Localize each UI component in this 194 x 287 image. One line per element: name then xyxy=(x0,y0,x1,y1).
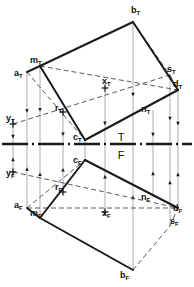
projector-b-arrow-down xyxy=(131,93,135,97)
projector-m-arrow-down xyxy=(38,108,42,112)
label-m_T-subscript: T xyxy=(38,60,42,66)
fold-label-top: T xyxy=(118,131,125,143)
label-d_F-subscript: F xyxy=(179,208,183,214)
label-b_T: bT xyxy=(131,5,141,16)
label-a_T: aT xyxy=(14,68,23,79)
dash-bF-sF xyxy=(133,226,170,270)
label-x_F-subscript: F xyxy=(107,213,111,219)
projector-m-arrow-up xyxy=(38,172,42,176)
label-d_T-subscript: T xyxy=(179,84,183,90)
edge-cT-mT xyxy=(40,66,85,140)
label-c_F-subscript: F xyxy=(78,160,82,166)
fold-label-bottom: F xyxy=(118,149,125,161)
label-s_T-subscript: T xyxy=(172,69,176,75)
edge-mF-bF xyxy=(40,218,133,270)
label-x_T-subscript: T xyxy=(107,81,111,87)
edge-mT-bT xyxy=(40,22,133,66)
label-d_T: dT xyxy=(173,79,183,90)
edge-bT-dT xyxy=(133,22,178,90)
crosshair-markers-group xyxy=(10,85,109,216)
label-y_F-subscript: F xyxy=(11,173,15,179)
edge-aT-mT xyxy=(27,66,40,72)
label-r_T-subscript: T xyxy=(59,108,63,114)
visible-solid-edges-group xyxy=(27,22,178,270)
label-n_F-subscript: F xyxy=(147,197,151,203)
projector-r-arrow-up xyxy=(61,168,65,172)
label-r_F-subscript: F xyxy=(59,187,63,193)
label-y_T: yT xyxy=(6,113,15,124)
projector-s-arrow-down xyxy=(168,117,172,121)
label-a_T-subscript: T xyxy=(19,73,23,79)
label-d_F: dF xyxy=(173,203,183,214)
projector-a-arrow-down xyxy=(25,109,29,113)
projector-x-arrow-down xyxy=(103,122,107,126)
projector-y-arrow-down xyxy=(11,135,15,139)
projector-a-arrow-up xyxy=(25,167,29,171)
label-y_F: yF xyxy=(6,168,15,179)
label-b_F-subscript: F xyxy=(126,275,130,281)
label-a_F-subscript: F xyxy=(19,205,23,211)
projector-s-arrow-up xyxy=(168,181,172,185)
label-b_T-subscript: T xyxy=(137,10,141,16)
label-c_F: cF xyxy=(73,155,82,166)
projector-n-arrow-up xyxy=(151,172,155,176)
label-m_F-subscript: F xyxy=(38,213,42,219)
projector-y-arrow-up xyxy=(11,158,15,162)
orthographic-projection-svg: bTmTaTsTdTxTrTnTyTcTcFyFrFnFaFmFxFdFsFbF… xyxy=(0,0,194,287)
projector-d-arrow-down xyxy=(176,122,180,126)
label-m_F-base: m xyxy=(30,208,38,218)
projection-drawing-canvas: bTmTaTsTdTxTrTnTyTcTcFyFrFnFaFmFxFdFsFbF… xyxy=(0,0,194,287)
projector-r-arrow-down xyxy=(61,132,65,136)
label-s_F: sF xyxy=(170,216,179,227)
edge-cF-dF xyxy=(85,160,178,208)
label-s_F-subscript: F xyxy=(175,221,179,227)
dash-yT-sT xyxy=(13,75,170,124)
label-n_T-subscript: T xyxy=(147,109,151,115)
projector-n-arrow-down xyxy=(151,133,155,137)
label-r_T: rT xyxy=(55,103,63,114)
projector-x-arrow-up xyxy=(103,175,107,179)
label-m_T-base: m xyxy=(30,55,38,65)
projector-d-arrow-up xyxy=(176,173,180,177)
label-x_T: xT xyxy=(102,76,111,87)
label-x_F: xF xyxy=(102,208,111,219)
label-r_F: rF xyxy=(55,182,63,193)
label-c_T-subscript: T xyxy=(78,137,82,143)
label-y_T-subscript: T xyxy=(11,118,15,124)
label-a_F: aF xyxy=(14,200,23,211)
label-b_F: bF xyxy=(120,270,130,281)
label-m_T: mT xyxy=(30,55,42,66)
label-s_T: sT xyxy=(167,64,176,75)
